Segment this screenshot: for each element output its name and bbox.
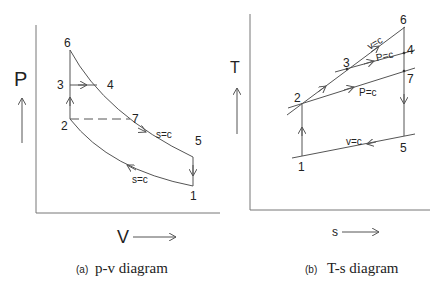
pv-caption: p-v diagram xyxy=(95,260,168,276)
pv-point-4: 4 xyxy=(107,78,114,92)
pv-point-6: 6 xyxy=(64,36,71,50)
ts-point-3: 3 xyxy=(343,56,350,70)
ts-caption: T-s diagram xyxy=(327,260,399,276)
ts-arrow-2-7-icon xyxy=(344,87,354,90)
pv-expansion-curve xyxy=(70,50,193,157)
ts-label-p-upper: P=c xyxy=(375,49,394,63)
pv-point-1: 1 xyxy=(190,189,197,203)
pv-diagram: P V 6 3 4 2 7 5 1 s=c s=c (a) p-v diagra… xyxy=(14,25,220,276)
ts-x-axis-label: s xyxy=(332,225,338,239)
ts-label-v-upper: v=c xyxy=(365,34,384,51)
ts-point-5: 5 xyxy=(400,141,407,155)
ts-label-v-lower: v=c xyxy=(346,136,362,147)
ts-caption-tag: (b) xyxy=(305,264,317,275)
pv-point-3: 3 xyxy=(57,78,64,92)
pv-x-axis-label: V xyxy=(117,227,129,247)
ts-diagram: T s 6 4 7 3 2 5 1 v=c P=c xyxy=(230,13,430,276)
pv-label-expansion: s=c xyxy=(156,129,172,140)
thermodynamic-cycle-figure: P V 6 3 4 2 7 5 1 s=c s=c (a) p-v diagra… xyxy=(0,0,443,292)
pv-y-axis-label: P xyxy=(14,68,27,90)
ts-point-7: 7 xyxy=(407,72,414,86)
ts-point-4: 4 xyxy=(407,43,414,57)
pv-point-7: 7 xyxy=(132,112,139,126)
ts-arrow-2-3-icon xyxy=(318,86,326,92)
pv-point-5: 5 xyxy=(195,134,202,148)
pv-caption-tag: (a) xyxy=(76,264,88,275)
pv-label-compression: s=c xyxy=(132,174,148,185)
ts-y-axis-label: T xyxy=(230,59,240,76)
ts-point-1: 1 xyxy=(298,160,305,174)
ts-point-2: 2 xyxy=(294,91,301,105)
ts-dot-7 xyxy=(403,70,406,73)
pv-arrow-compression-icon xyxy=(127,165,136,170)
ts-label-p-lower: P=c xyxy=(359,87,377,98)
pv-point-2: 2 xyxy=(61,119,68,133)
ts-dot-4 xyxy=(403,52,406,55)
ts-point-6: 6 xyxy=(400,13,407,27)
ts-process-2-3-6 xyxy=(287,27,405,115)
ts-arrow-3-4-icon xyxy=(364,61,374,64)
